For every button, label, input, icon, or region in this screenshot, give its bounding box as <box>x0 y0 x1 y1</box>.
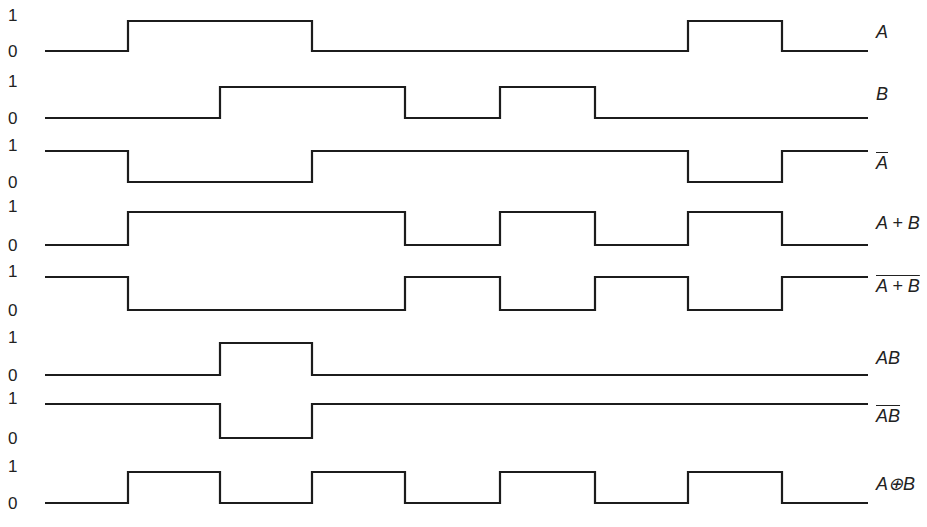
signal-label-B: B <box>876 85 888 103</box>
level-label-low: 0 <box>8 110 17 127</box>
level-label-high: 1 <box>8 73 17 90</box>
timing-diagram: 10A10B10A10A + B10A + B10AB10AB10A⊕B <box>0 0 927 527</box>
signal-label-A-nor-B: A + B <box>876 277 920 295</box>
signal-label-A-and-B: AB <box>876 349 900 367</box>
waveform-A-nand-B <box>45 404 868 438</box>
level-label-high: 1 <box>8 198 17 215</box>
waveform-A <box>45 21 868 51</box>
level-label-high: 1 <box>8 329 17 346</box>
waveform-A-and-B <box>45 343 868 375</box>
level-label-high: 1 <box>8 263 17 280</box>
waveform-A-xor-B <box>45 472 868 503</box>
level-label-low: 0 <box>8 430 17 447</box>
level-label-low: 0 <box>8 237 17 254</box>
level-label-high: 1 <box>8 458 17 475</box>
signal-label-A-nand-B: AB <box>876 407 900 425</box>
level-label-low: 0 <box>8 367 17 384</box>
waveform-A-nor-B <box>45 277 868 310</box>
level-label-low: 0 <box>8 43 17 60</box>
level-label-high: 1 <box>8 390 17 407</box>
waveform-B <box>45 87 868 118</box>
level-label-low: 0 <box>8 495 17 512</box>
waveform-A-or-B <box>45 212 868 245</box>
waveforms <box>0 0 927 527</box>
level-label-high: 1 <box>8 137 17 154</box>
signal-label-A-or-B: A + B <box>876 214 920 232</box>
signal-label-A: A <box>876 23 888 41</box>
signal-label-A-xor-B: A⊕B <box>876 475 915 493</box>
level-label-high: 1 <box>8 7 17 24</box>
waveform-not-A <box>45 151 868 182</box>
level-label-low: 0 <box>8 302 17 319</box>
signal-label-not-A: A <box>876 154 888 172</box>
level-label-low: 0 <box>8 174 17 191</box>
